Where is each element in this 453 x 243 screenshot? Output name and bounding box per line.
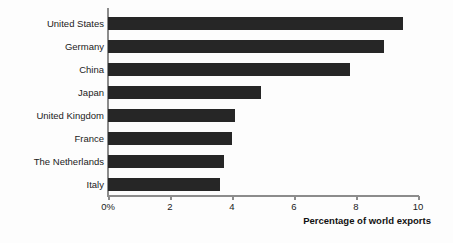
bar-category-label: Germany xyxy=(0,40,104,53)
x-axis-title: Percentage of world exports xyxy=(303,215,431,226)
bar-china xyxy=(108,63,350,76)
x-axis-tick-label: 0% xyxy=(101,201,115,212)
bar-united-states xyxy=(108,17,403,30)
bar-category-label: United States xyxy=(0,17,104,30)
bar-chart: United States Germany China Japan United… xyxy=(0,0,453,243)
bar-category-label: The Netherlands xyxy=(0,155,104,168)
x-axis-tick-label: 4 xyxy=(229,201,234,212)
bar-row: The Netherlands xyxy=(0,153,453,176)
bar-category-label: United Kingdom xyxy=(0,109,104,122)
x-axis-tick-label: 8 xyxy=(353,201,358,212)
bar-row: United States xyxy=(0,15,453,38)
x-axis-tick xyxy=(108,196,110,200)
bar-category-label: Japan xyxy=(0,86,104,99)
x-axis-tick xyxy=(232,196,234,200)
bar-france xyxy=(108,132,232,145)
bar-category-label: France xyxy=(0,132,104,145)
x-axis-tick xyxy=(170,196,172,200)
bar-united-kingdom xyxy=(108,109,235,122)
x-axis-tick-label: 6 xyxy=(291,201,296,212)
bar-row: France xyxy=(0,130,453,153)
x-axis-tick xyxy=(418,196,420,200)
bar-row: Germany xyxy=(0,38,453,61)
x-axis-tick-label: 2 xyxy=(167,201,172,212)
bar-row: Italy xyxy=(0,176,453,199)
bar-japan xyxy=(108,86,261,99)
bar-the-netherlands xyxy=(108,155,224,168)
bar-category-label: Italy xyxy=(0,178,104,191)
bar-italy xyxy=(108,178,220,191)
x-axis-tick xyxy=(294,196,296,200)
bar-row: Japan xyxy=(0,84,453,107)
plot-area: United States Germany China Japan United… xyxy=(0,0,453,243)
bar-germany xyxy=(108,40,384,53)
bar-row: United Kingdom xyxy=(0,107,453,130)
bar-row: China xyxy=(0,61,453,84)
x-axis-tick xyxy=(356,196,358,200)
bar-category-label: China xyxy=(0,63,104,76)
x-axis-tick-label: 10 xyxy=(413,201,424,212)
